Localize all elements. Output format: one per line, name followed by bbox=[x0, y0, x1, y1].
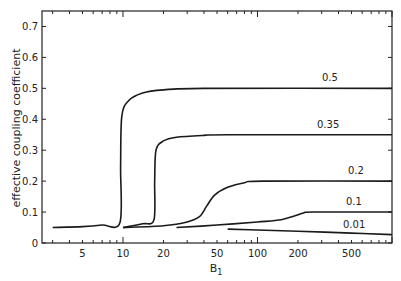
plot-frame bbox=[42, 11, 392, 243]
y-tick-label: 0.2 bbox=[22, 176, 38, 187]
x-axis-title: B1 bbox=[210, 262, 223, 277]
data-curves bbox=[53, 88, 392, 234]
x-tick-label: 50 bbox=[211, 248, 224, 259]
y-axis-title: effective coupling coefficient bbox=[10, 48, 23, 208]
curve-label: 0.35 bbox=[317, 119, 339, 130]
x-tick-label: 5 bbox=[79, 248, 85, 259]
y-tick-label: 0.3 bbox=[22, 145, 38, 156]
y-tick-label: 0.4 bbox=[22, 114, 38, 125]
y-tick-label: 0 bbox=[32, 238, 38, 249]
x-tick-label: 500 bbox=[342, 248, 361, 259]
x-tick-label: 20 bbox=[157, 248, 170, 259]
curve-0p01 bbox=[228, 229, 392, 235]
curve-label: 0.1 bbox=[346, 196, 362, 207]
curve-label: 0.2 bbox=[348, 165, 364, 176]
curve-label: 0.01 bbox=[343, 219, 365, 230]
y-tick-label: 0.7 bbox=[22, 21, 38, 32]
x-tick-label: 100 bbox=[248, 248, 267, 259]
y-tick-label: 0.6 bbox=[22, 52, 38, 63]
x-tick-label: 10 bbox=[117, 248, 130, 259]
y-tick-label: 0.5 bbox=[22, 83, 38, 94]
x-tick-label: 200 bbox=[288, 248, 307, 259]
coupling-coefficient-chart: 5102050100200500 00.10.20.30.40.50.60.7 … bbox=[0, 0, 401, 281]
curve-labels: 0.50.350.20.10.01 bbox=[317, 72, 365, 230]
curve-0p5 bbox=[53, 88, 392, 227]
y-tick-label: 0.1 bbox=[22, 207, 38, 218]
curve-label: 0.5 bbox=[322, 72, 338, 83]
